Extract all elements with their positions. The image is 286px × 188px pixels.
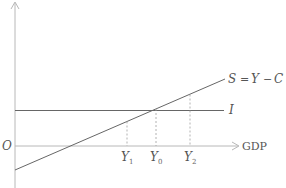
tick-y1: Y 1 — [121, 150, 133, 166]
saving-label: S = Y − C — [228, 72, 283, 86]
investment-label: I — [228, 103, 234, 117]
tick-y2-sub: 2 — [192, 158, 196, 166]
savings-investment-diagram: O GDP I S = Y − C Y 1 Y 0 Y 2 — [0, 0, 286, 188]
saving-line — [15, 79, 225, 170]
origin-label: O — [2, 139, 12, 153]
saving-label-c: C — [274, 72, 283, 86]
saving-label-eq: = — [240, 73, 249, 86]
saving-label-s: S — [228, 72, 236, 86]
y-axis — [11, 2, 19, 188]
x-axis-label: GDP — [242, 140, 268, 153]
saving-label-y: Y — [251, 72, 260, 86]
tick-y1-sub: 1 — [129, 158, 133, 166]
saving-label-minus: − — [263, 73, 272, 86]
tick-y0: Y 0 — [150, 150, 162, 166]
tick-y2: Y 2 — [184, 150, 196, 166]
tick-y0-sub: 0 — [158, 158, 162, 166]
